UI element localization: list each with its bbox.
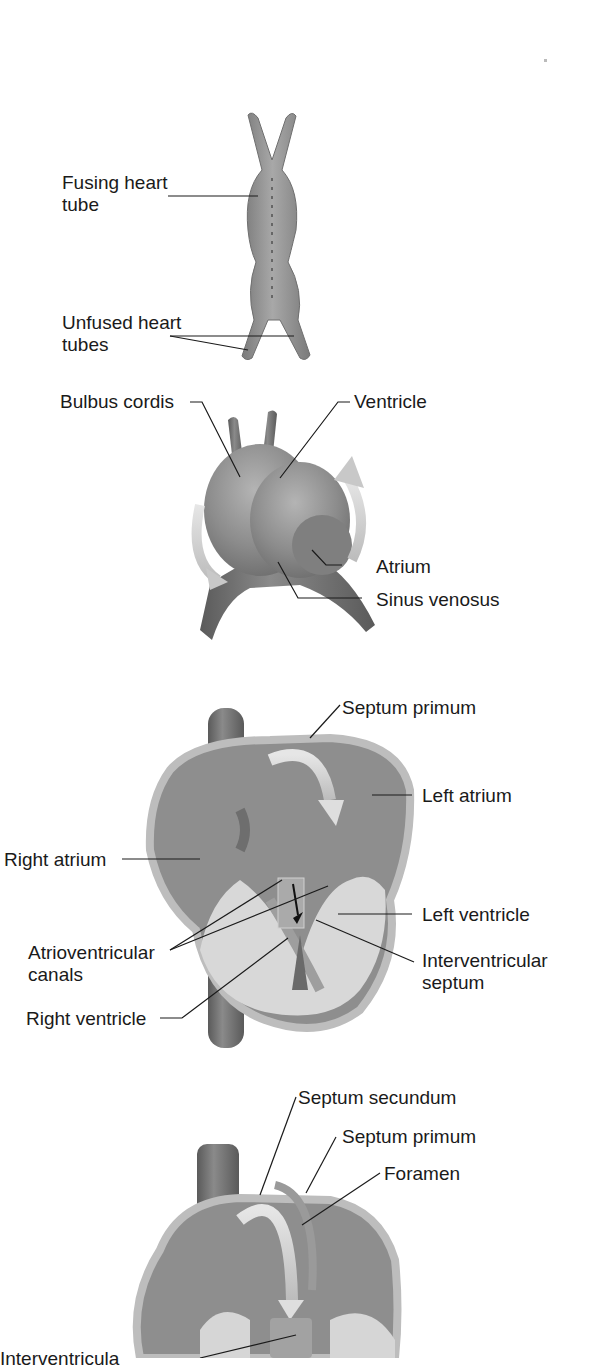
label-unfused-heart-tubes: Unfused hearttubes (62, 312, 181, 356)
septation-heart-figure (150, 708, 410, 1048)
label-atrioventricular-canals: Atrioventricularcanals (28, 942, 155, 986)
label-bulbus-cordis: Bulbus cordis (60, 391, 174, 413)
label-septum-primum-2: Septum primum (342, 1126, 476, 1148)
label-interventricular-septum: Interventricularseptum (422, 950, 548, 994)
fusing-heart-tube-figure (242, 113, 310, 360)
label-right-atrium: Right atrium (4, 849, 106, 871)
label-sinus-venosus: Sinus venosus (376, 589, 500, 611)
label-fusing-heart-tube: Fusing hearttube (62, 172, 168, 216)
label-foramen: Foramen (384, 1163, 460, 1185)
label-left-atrium: Left atrium (422, 785, 512, 807)
label-interventricular-cutoff: Interventricula (0, 1348, 119, 1369)
label-septum-primum: Septum primum (342, 697, 476, 719)
label-ventricle: Ventricle (354, 391, 427, 413)
label-left-ventricle: Left ventricle (422, 904, 530, 926)
speck (544, 59, 547, 62)
label-atrium: Atrium (376, 556, 431, 578)
label-right-ventricle: Right ventricle (26, 1008, 146, 1030)
label-septum-secundum: Septum secundum (298, 1087, 456, 1109)
